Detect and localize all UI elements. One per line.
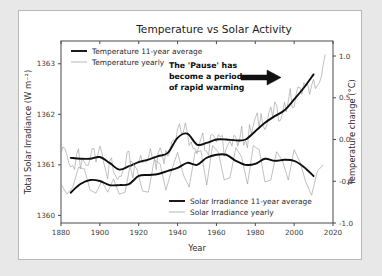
y-left-tick-label: 1362 [37,110,55,119]
annotation-line-1: The 'Pause' has [169,61,237,70]
y-left-tick-label: 1363 [37,59,55,68]
legend-bottom: Solar Irradiance 11-year averageSolar Ir… [169,197,312,217]
x-tick-label: 1880 [52,228,71,237]
arrow-right-icon [241,70,281,85]
x-axis-title: Year [187,243,206,253]
x-tick-label: 1960 [207,228,226,237]
series-line-solar-irradiance-yearly [61,146,323,196]
legend-label-1: Solar Irradiance 11-year average [190,197,312,206]
legend-label-1: Temperature 11-year average [91,47,203,56]
figure-frame: Temperature vs Solar Activity 1880190019… [18,10,362,260]
pause-annotation: The 'Pause' has become a period of rapid… [169,61,281,92]
x-tick-label: 1940 [168,228,187,237]
legend-label-2: Solar Irradiance yearly [190,208,274,217]
annotation-line-2: become a period [169,72,242,81]
y-right-tick-label: 1.0 [339,52,351,61]
y-left-tick-label: 1360 [37,211,56,220]
chart-title: Temperature vs Solar Activity [135,23,292,35]
y-left-tick-label: 1361 [37,160,55,169]
annotation-line-3: of rapid warming [169,83,244,92]
y-axis-title-right: Temperature change (°C) [347,79,357,186]
series-line-solar-irradiance-11-year-average [71,154,314,193]
y-axis-left-ticks: 1360136113621363 [37,59,61,220]
x-tick-label: 1900 [91,228,110,237]
y-right-tick-label: -1.0 [339,219,353,228]
y-axis-title-left: Total Solar Irradiance (W m⁻²) [23,70,33,195]
temperature-vs-solar-activity-chart: Temperature vs Solar Activity 1880190019… [19,11,363,261]
x-tick-label: 1920 [130,228,149,237]
legend-label-2: Temperature yearly [91,58,165,67]
chart-root: Temperature vs Solar Activity 1880190019… [19,11,363,261]
x-tick-label: 2000 [285,228,304,237]
x-tick-label: 1980 [246,228,265,237]
x-tick-label: 2020 [324,228,343,237]
